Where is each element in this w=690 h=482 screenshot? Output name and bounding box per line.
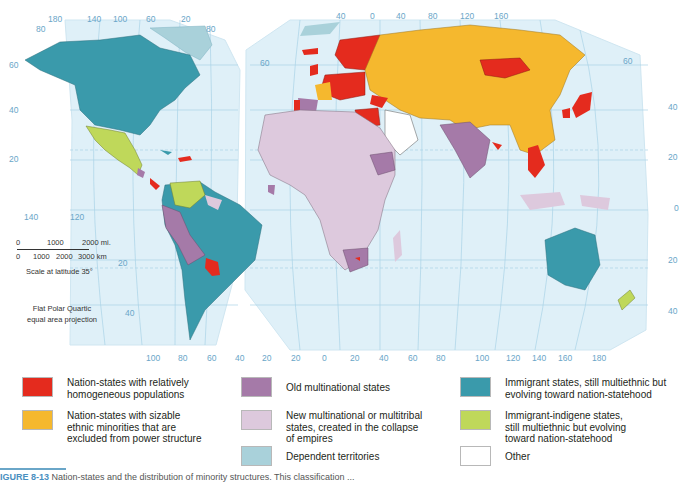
legend-item-dependent: Dependent territories [241, 446, 451, 466]
lon-label: 40 [235, 353, 244, 363]
lat-label: 80 [36, 24, 45, 34]
lon-label: 120 [506, 353, 520, 363]
lat-label: 20 [668, 255, 677, 265]
legend-swatch [460, 410, 491, 430]
lat-label: 40 [668, 102, 677, 112]
lon-label: 20 [291, 353, 300, 363]
lon-label: 80 [178, 353, 187, 363]
legend-label: New multinational or multitribal states,… [286, 410, 426, 445]
lat-label: 40 [668, 306, 677, 316]
legend-item-old-multinational: Old multinational states [241, 377, 451, 397]
lat-label: 60 [623, 56, 632, 66]
lon-label: 100 [475, 353, 489, 363]
legend-item-immigrant: Immigrant states, still multiethnic but … [460, 377, 690, 400]
lon-label: 60 [146, 14, 155, 24]
legend-swatch [22, 410, 53, 430]
legend-label: Dependent territories [286, 451, 379, 463]
caption-rule [0, 468, 66, 470]
lat-label: 60 [260, 58, 269, 68]
legend-item-immigrant-indigene: Immigrant-indigene states, still multiet… [460, 410, 690, 445]
scale-km-tick: 2000 [56, 252, 73, 261]
lon-label: 20 [262, 353, 271, 363]
lat-label: 40 [9, 105, 18, 115]
legend-swatch [241, 410, 272, 430]
lon-label: 180 [48, 14, 62, 24]
legend-label: Immigrant-indigene states, still multiet… [505, 410, 635, 445]
lat-label: 20 [9, 154, 18, 164]
legend-item-nation-minorities: Nation-states with sizable ethnic minori… [22, 410, 232, 445]
legend-swatch [22, 377, 53, 397]
lat-label: 20 [668, 152, 677, 162]
lon-label: 160 [558, 353, 572, 363]
scale-bar: 0 1000 2000 mi. 0 1000 2000 3000 km Scal… [14, 238, 124, 276]
lon-label: 140 [24, 212, 38, 222]
scale-km-tick: 0 [16, 252, 20, 261]
lon-label: 0 [370, 11, 375, 21]
projection-line-2: equal area projection [12, 314, 112, 325]
lon-label: 160 [494, 11, 508, 21]
legend-label: Old multinational states [286, 382, 390, 394]
lon-label: 40 [396, 11, 405, 21]
legend-swatch [460, 446, 491, 466]
legend-swatch [241, 446, 272, 466]
scale-mi-tick: 2000 mi. [82, 238, 111, 247]
lon-label: 20 [350, 353, 359, 363]
projection-line-1: Flat Polar Quartic [12, 303, 112, 314]
lon-label: 120 [70, 212, 84, 222]
legend-item-new-multinational: New multinational or multitribal states,… [241, 410, 451, 445]
lon-label: 180 [592, 353, 606, 363]
lon-label: 100 [146, 353, 160, 363]
legend-label: Other [505, 451, 530, 463]
legend-label: Immigrant states, still multiethnic but … [505, 377, 680, 400]
lon-label: 40 [379, 353, 388, 363]
lat-label: 0 [674, 203, 679, 213]
figure-caption: IGURE 8-13 Nation-states and the distrib… [0, 472, 355, 482]
legend-item-other: Other [460, 446, 690, 466]
legend-label: Nation-states with relatively homogeneou… [67, 377, 232, 400]
lon-label: 120 [460, 11, 474, 21]
lon-label: 140 [87, 14, 101, 24]
figure-number: IGURE 8-13 [0, 472, 49, 482]
lat-label: 60 [9, 60, 18, 70]
legend-item-nation-homogeneous: Nation-states with relatively homogeneou… [22, 377, 232, 400]
lon-label: 60 [207, 353, 216, 363]
lon-label: 100 [113, 14, 127, 24]
lon-label: 20 [181, 14, 190, 24]
scale-caption: Scale at latitude 35° [26, 267, 124, 276]
map-legend: Nation-states with relatively homogeneou… [0, 372, 690, 458]
caption-text: Nation-states and the distribution of mi… [52, 472, 355, 482]
legend-label: Nation-states with sizable ethnic minori… [67, 410, 207, 445]
legend-swatch [460, 377, 491, 397]
lon-label: 140 [532, 353, 546, 363]
legend-swatch [241, 377, 272, 397]
scale-mi-tick: 1000 [47, 238, 64, 247]
scale-km-tick: 1000 [33, 252, 50, 261]
lon-label: 40 [336, 11, 345, 21]
world-map: 180 140 100 60 20 80 80 60 40 20 140 120… [0, 0, 690, 365]
scale-line [17, 249, 89, 250]
projection-note: Flat Polar Quartic equal area projection [12, 303, 112, 325]
scale-mi-tick: 0 [16, 238, 20, 247]
lon-label: 0 [322, 353, 327, 363]
lat-label: 40 [125, 308, 134, 318]
lat-label: 80 [206, 24, 215, 34]
lon-label: 60 [408, 353, 417, 363]
lon-label: 80 [428, 11, 437, 21]
scale-km-tick: 3000 km [78, 252, 107, 261]
lon-label: 80 [436, 353, 445, 363]
